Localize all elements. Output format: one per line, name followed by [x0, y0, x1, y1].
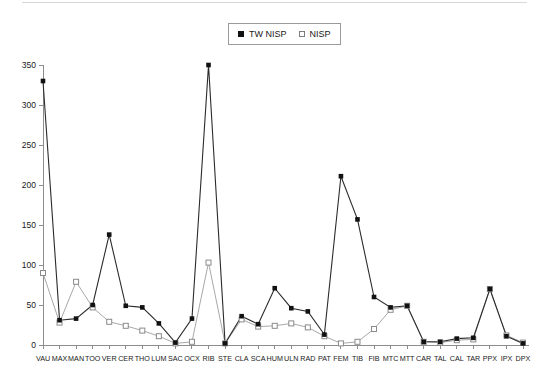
x-tick-label: CLA — [235, 354, 249, 363]
x-tick-label: THO — [135, 354, 151, 363]
y-tick-label: 100 — [22, 260, 36, 270]
data-point-marker — [306, 309, 311, 314]
data-point-marker — [74, 279, 79, 284]
x-tick-labels-group: VAUMAXMANTOOVERCERTHOLUMSACOCXRIBSTECLAS… — [36, 354, 531, 363]
x-tick-label: STE — [218, 354, 232, 363]
data-point-marker — [90, 303, 95, 308]
data-point-marker — [206, 260, 211, 265]
data-point-marker — [289, 306, 294, 311]
data-point-marker — [488, 287, 493, 292]
x-tick-label: TAL — [434, 354, 447, 363]
data-point-marker — [388, 305, 393, 310]
data-point-marker — [41, 79, 46, 84]
data-point-marker — [173, 340, 178, 345]
y-tick-label: 150 — [22, 220, 36, 230]
axes-group — [39, 65, 529, 349]
x-tick-label: MTT — [400, 354, 415, 363]
x-tick-label: OCX — [184, 354, 200, 363]
x-tick-label: PAT — [318, 354, 332, 363]
y-tick-label: 250 — [22, 140, 36, 150]
x-tick-label: ULN — [284, 354, 298, 363]
data-point-marker — [57, 318, 62, 323]
x-tick-label: CAR — [416, 354, 431, 363]
chart-canvas: 050100150200250300350 VAUMAXMANTOOVERCER… — [0, 0, 549, 388]
x-tick-label: TAR — [466, 354, 480, 363]
data-point-marker — [107, 232, 112, 237]
data-point-marker — [504, 334, 509, 339]
x-tick-label: TIB — [352, 354, 363, 363]
chart-root: TW NISP NISP 050100150200250300350 VAUMA… — [0, 0, 549, 388]
x-tick-label: MAN — [68, 354, 84, 363]
data-point-marker — [305, 325, 310, 330]
x-tick-label: RAD — [300, 354, 315, 363]
data-point-marker — [74, 316, 79, 321]
y-tick-label: 350 — [22, 60, 36, 70]
x-tick-label: LUM — [151, 354, 166, 363]
x-tick-label: CER — [118, 354, 133, 363]
data-point-marker — [355, 217, 360, 222]
series-line-tw-nisp — [43, 65, 523, 343]
x-tick-label: DPX — [516, 354, 531, 363]
data-point-marker — [372, 327, 377, 332]
data-point-marker — [289, 321, 294, 326]
y-tick-label: 300 — [22, 100, 36, 110]
y-tick-label: 50 — [27, 300, 37, 310]
x-tick-label: RIB — [203, 354, 215, 363]
data-point-marker — [438, 340, 443, 345]
data-point-marker — [189, 339, 194, 344]
x-tick-label: MTC — [383, 354, 399, 363]
y-tick-label: 200 — [22, 180, 36, 190]
data-point-marker — [41, 271, 46, 276]
y-tick-label: 0 — [31, 340, 36, 350]
data-point-marker — [140, 328, 145, 333]
x-tick-label: FIB — [368, 354, 379, 363]
data-point-marker — [339, 174, 344, 179]
series-points-tw-nisp — [41, 63, 526, 346]
y-tick-labels-group: 050100150200250300350 — [22, 60, 36, 350]
data-point-marker — [372, 295, 377, 300]
x-tick-label: VER — [102, 354, 117, 363]
x-tick-label: TOO — [85, 354, 101, 363]
data-point-marker — [322, 332, 327, 337]
x-tick-label: HUM — [267, 354, 283, 363]
data-point-marker — [272, 286, 277, 291]
series-polyline — [43, 65, 523, 343]
data-point-marker — [223, 341, 228, 346]
x-tick-label: SAC — [168, 354, 183, 363]
series-polyline — [43, 263, 523, 344]
data-point-marker — [156, 334, 161, 339]
data-point-marker — [454, 336, 459, 341]
data-point-marker — [405, 304, 410, 309]
x-tick-label: CAL — [450, 354, 464, 363]
data-point-marker — [239, 314, 244, 319]
plot-area: 050100150200250300350 VAUMAXMANTOOVERCER… — [0, 0, 549, 388]
data-point-marker — [107, 319, 112, 324]
series-line-nisp — [43, 263, 523, 344]
data-point-marker — [206, 63, 211, 68]
data-point-marker — [338, 341, 343, 346]
data-point-marker — [421, 340, 426, 345]
data-point-marker — [123, 304, 128, 309]
x-tick-label: PPX — [483, 354, 498, 363]
data-point-marker — [272, 323, 277, 328]
data-point-marker — [471, 336, 476, 341]
x-tick-label: FEM — [333, 354, 348, 363]
data-point-marker — [123, 323, 128, 328]
x-tick-label: IPX — [501, 354, 513, 363]
x-tick-label: MAX — [52, 354, 68, 363]
data-point-marker — [140, 305, 145, 310]
data-point-marker — [355, 339, 360, 344]
x-tick-label: SCA — [251, 354, 266, 363]
data-point-marker — [256, 322, 261, 327]
data-point-marker — [190, 316, 195, 321]
data-point-marker — [157, 321, 162, 326]
x-tick-label: VAU — [36, 354, 50, 363]
data-point-marker — [521, 341, 526, 346]
series-points-nisp — [41, 260, 526, 346]
